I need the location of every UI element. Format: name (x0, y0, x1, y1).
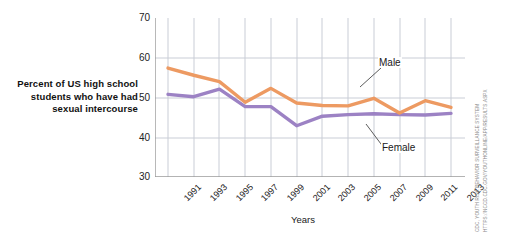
source-credit-url: HTTPS://NCCD.CDC.GOV/YOUTHONLINE/APP/RES… (483, 89, 488, 232)
x-axis-title: Years (291, 214, 315, 225)
x-tick-2001: 2001 (311, 182, 332, 203)
x-tick-2003: 2003 (336, 182, 357, 203)
gridlines (155, 18, 465, 177)
x-tick-2007: 2007 (388, 182, 409, 203)
series-label-male: Male (378, 57, 402, 68)
leader-line-male (360, 68, 381, 87)
y-tick-30: 30 (124, 171, 150, 182)
x-tick-1993: 1993 (208, 182, 229, 203)
chart-figure: Percent of US high school students who h… (0, 0, 506, 245)
x-tick-2011: 2011 (439, 182, 460, 203)
x-tick-1997: 1997 (259, 182, 280, 203)
x-tick-2009: 2009 (414, 182, 435, 203)
y-tick-40: 40 (124, 132, 150, 143)
series-label-female: Female (381, 142, 416, 153)
chart-caption: Percent of US high school students who h… (14, 78, 138, 116)
source-credit-line-1: CDC, YOUTH RISK BEHAVIOR SURVEILLANCE SY… (475, 104, 480, 232)
y-tick-60: 60 (124, 52, 150, 63)
x-tick-1999: 1999 (285, 182, 306, 203)
plot-area (155, 18, 465, 177)
x-tick-2005: 2005 (362, 182, 383, 203)
x-tick-1995: 1995 (234, 182, 255, 203)
y-tick-70: 70 (124, 12, 150, 23)
y-tick-50: 50 (124, 92, 150, 103)
x-tick-1991: 1991 (182, 182, 203, 203)
